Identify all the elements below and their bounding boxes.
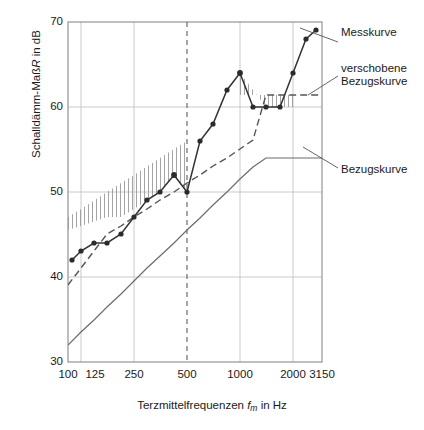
leader-verschobene-bezugskurve bbox=[308, 76, 338, 95]
data-point-400hz-peak bbox=[171, 172, 177, 178]
series-verschobene-bezugskurve bbox=[68, 95, 322, 285]
series-messkurve bbox=[72, 30, 316, 260]
data-point-900hz bbox=[224, 87, 229, 92]
data-point-100hz bbox=[69, 257, 74, 262]
data-point-250hz bbox=[118, 231, 123, 236]
sound-insulation-chart: Schalldämm-MaßR in dB Terzmittelfrequenz… bbox=[0, 0, 424, 430]
data-point-3150hz bbox=[313, 27, 318, 32]
grid-lines bbox=[68, 22, 322, 362]
hatched-region-low bbox=[68, 141, 187, 230]
data-point-500hz bbox=[184, 189, 189, 194]
data-point-630hz bbox=[197, 138, 202, 143]
series-messkurve-markers bbox=[69, 27, 318, 262]
data-point-800hz bbox=[210, 121, 215, 126]
data-point-2500hz bbox=[303, 36, 308, 41]
data-point-1000hz bbox=[237, 70, 243, 76]
data-point-125hz bbox=[78, 248, 83, 253]
data-point-1600hz bbox=[277, 104, 282, 109]
callout-leader-lines bbox=[300, 28, 338, 168]
data-point-1250hz bbox=[250, 104, 255, 109]
hatched-region-high bbox=[240, 73, 293, 107]
data-point-160hz bbox=[91, 240, 96, 245]
data-point-200hz bbox=[104, 240, 109, 245]
data-point-1400hz bbox=[263, 104, 268, 109]
data-point-450hz bbox=[157, 189, 162, 194]
data-point-315hz bbox=[131, 214, 136, 219]
data-point-2000hz bbox=[290, 70, 295, 75]
data-point-400hz bbox=[144, 197, 149, 202]
series-bezugskurve bbox=[68, 158, 322, 345]
chart-canvas bbox=[0, 0, 424, 430]
